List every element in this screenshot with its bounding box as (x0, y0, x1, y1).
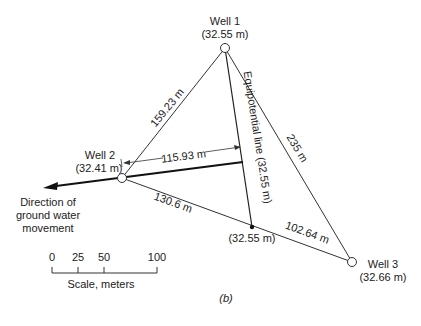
flow-direction-label-3: movement (22, 222, 73, 234)
well-2-name-label: Well 2 (85, 149, 115, 161)
well-1-marker (221, 44, 230, 53)
equipotential-point (250, 225, 254, 229)
well-3-head: (32.66 m) (359, 271, 406, 283)
dimension-line (126, 158, 163, 163)
scale-tick-0: 0 (49, 251, 55, 263)
scale-tick-100: 100 (148, 251, 166, 263)
well-2-marker (118, 174, 127, 183)
distance-well1-well2: 159.23 m (148, 86, 186, 129)
scale-tick-50: 50 (98, 251, 110, 263)
dimension-arrow-left-icon (123, 160, 130, 165)
distance-point-well3: 102.64 m (284, 219, 331, 246)
well-1-head: (32.55 m) (201, 28, 248, 40)
well-1-name: Well 1 (210, 15, 240, 27)
equipotential-point-head: (32.55 m) (228, 232, 275, 244)
distance-well2-equipotential: 115.93 m (160, 147, 206, 164)
distance-well2-point: 130.6 m (153, 190, 194, 215)
well-3-name-label: Well 3 (368, 258, 398, 270)
well-3-marker (348, 258, 357, 267)
flow-arrow-head-icon (43, 182, 58, 190)
scale-bar: 0 25 50 100 Scale, meters (49, 251, 166, 290)
distance-well1-well3: 235 m (284, 132, 310, 164)
equipotential-label: Equipotential line (32.55 m) (242, 70, 275, 204)
well-2-head: (32.41 m) (75, 162, 122, 174)
three-point-problem-diagram: Well 1 (32.55 m) Well 3 Well 2 (32.41 m)… (0, 0, 421, 326)
flow-direction-label-1: Direction of (20, 196, 77, 208)
scale-label: Scale, meters (67, 278, 135, 290)
figure-label: (b) (219, 292, 233, 304)
scale-tick-25: 25 (72, 251, 84, 263)
flow-direction-label-2: ground water (16, 209, 81, 221)
